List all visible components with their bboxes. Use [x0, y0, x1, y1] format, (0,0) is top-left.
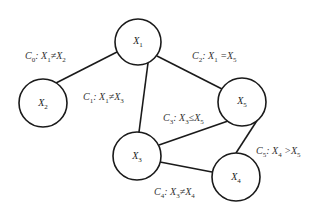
constraint-label-c5: C5: X4 >X5 [256, 145, 300, 159]
edge-x3-x4 [160, 162, 212, 172]
node-label-x2: X2 [38, 97, 48, 111]
constraint-label-c0: C0: X1≠X2 [25, 50, 66, 64]
edge-x1-x3 [139, 63, 148, 132]
node-label-x1: X1 [133, 35, 143, 49]
constraint-label-c1: C1: X1≠X3 [83, 91, 124, 105]
constraint-label-c3: C3: X3≤X5 [163, 112, 204, 126]
constraint-graph: X1 X2 X3 X4 X5 C0: X1≠X2 C1: X1≠X3 C2: X… [0, 0, 313, 214]
node-label-x4: X4 [231, 171, 241, 185]
node-label-x3: X3 [132, 150, 142, 164]
constraint-label-c2: C2: X1 =X5 [192, 50, 236, 64]
constraint-label-c4: C4: X3≠X4 [154, 186, 195, 200]
node-label-x5: X5 [237, 95, 247, 109]
